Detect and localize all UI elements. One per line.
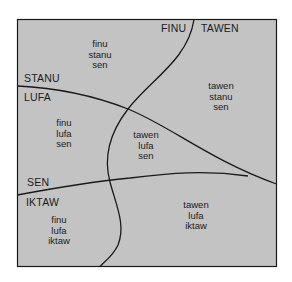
label-sen: SEN — [27, 177, 49, 187]
region-word: iktaw — [48, 236, 70, 247]
region-word: tawen — [208, 81, 233, 92]
region-tawen-lufa-sen: tawen lufa sen — [133, 130, 158, 162]
region-word: sen — [133, 151, 158, 162]
region-word: finu — [88, 39, 111, 50]
label-iktaw: IKTAW — [26, 197, 59, 207]
region-word: sen — [88, 60, 111, 71]
label-lufa: LUFA — [24, 92, 51, 102]
label-finu: FINU — [161, 23, 186, 33]
region-finu-stanu-sen: finu stanu sen — [88, 39, 111, 71]
region-word: sen — [56, 139, 71, 150]
region-word: sen — [208, 102, 233, 113]
region-finu-lufa-iktaw: finu lufa iktaw — [48, 215, 70, 247]
region-word: iktaw — [183, 221, 208, 232]
label-tawen: TAWEN — [201, 23, 239, 33]
label-stanu: STANU — [24, 73, 60, 83]
region-word: tawen — [183, 200, 208, 211]
region-tawen-lufa-iktaw: tawen lufa iktaw — [183, 200, 208, 232]
region-tawen-stanu-sen: tawen stanu sen — [208, 81, 233, 113]
region-finu-lufa-sen: finu lufa sen — [56, 118, 71, 150]
region-word: finu — [48, 215, 70, 226]
region-word: finu — [56, 118, 71, 129]
region-word: tawen — [133, 130, 158, 141]
